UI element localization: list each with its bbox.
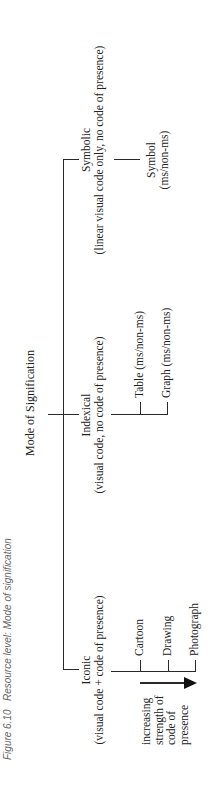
graph-tick — [167, 402, 168, 415]
leaf-photograph: Photograph — [188, 603, 201, 656]
root-connector — [48, 414, 63, 415]
photograph-tick — [195, 660, 196, 672]
node-iconic: Iconic (visual code + code of presence) — [80, 570, 106, 770]
leaf-cartoon: Cartoon — [133, 619, 146, 656]
iconic-children-line — [111, 671, 196, 672]
node-indexical-sublabel: (visual code, no code of presence) — [93, 315, 106, 515]
node-indexical: Indexical (visual code, no code of prese… — [80, 315, 106, 515]
drawing-tick — [168, 660, 169, 672]
node-indexical-label: Indexical — [80, 315, 93, 515]
symbolic-children-line — [114, 159, 140, 160]
node-symbolic-label: Symbolic — [80, 30, 93, 270]
strength-axis-label: increasing strength of code of presence — [140, 695, 190, 745]
node-iconic-sublabel: (visual code + code of presence) — [93, 570, 106, 770]
leaf-graph: Graph (ms/non-ms) — [160, 308, 173, 398]
strength-arrow-shaft — [140, 682, 186, 684]
leaf-symbol: Symbol (ms/non-ms) — [145, 120, 171, 200]
symbolic-connector — [63, 159, 79, 160]
indexical-connector — [63, 414, 79, 415]
node-iconic-label: Iconic — [80, 570, 93, 770]
diagram-canvas: Figure 6.10 Resource level: Mode of sign… — [0, 0, 222, 789]
diagram-title: Mode of Signification — [23, 350, 38, 456]
figure-caption: Figure 6.10 Resource level: Mode of sign… — [2, 538, 13, 760]
leaf-table: Table (ms/non-ms) — [133, 311, 146, 398]
leaf-drawing: Drawing — [161, 616, 174, 656]
iconic-connector — [63, 669, 79, 670]
node-symbolic: Symbolic (linear visual code only, no co… — [80, 30, 106, 270]
figure-number: Figure 6.10 — [2, 709, 13, 760]
table-tick — [140, 402, 141, 415]
figure-caption-text: Resource level: Mode of signification — [2, 538, 13, 701]
node-symbolic-sublabel: (linear visual code only, no code of pre… — [93, 30, 106, 270]
cartoon-tick — [140, 660, 141, 672]
strength-arrow-head-icon — [184, 677, 197, 689]
